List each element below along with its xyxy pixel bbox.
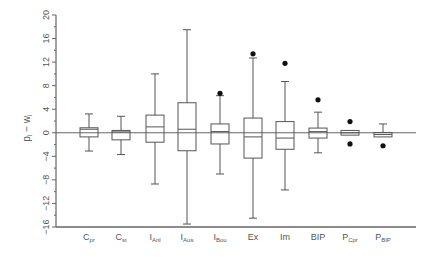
x-category-label: Cst: [115, 232, 127, 243]
y-tick-label: 8: [41, 83, 51, 88]
outlier-point: [250, 51, 255, 56]
y-tick-label: −8: [41, 175, 51, 185]
y-axis-label: pi − wi: [21, 114, 33, 142]
y-tick-label: 12: [41, 57, 51, 67]
outlier-point: [315, 97, 320, 102]
iqr-box: [146, 115, 164, 142]
outlier-point: [282, 61, 287, 66]
x-category-label: Cpr: [83, 232, 95, 243]
y-tick-label: −4: [41, 151, 51, 161]
x-category-label: IBou: [213, 232, 226, 243]
x-category-label: BIP: [311, 232, 326, 242]
x-category-label: PBIP: [375, 232, 391, 243]
x-category-label: Im: [280, 232, 290, 242]
box-bip: [309, 97, 327, 153]
y-tick-label: 16: [41, 34, 51, 44]
box-plot-chart: −16−12−8−4048121620 CprCstIAnlIAusIBouEx…: [0, 0, 440, 257]
box-i-anl: [146, 74, 164, 184]
y-tick-label: −12: [41, 196, 51, 211]
iqr-box: [211, 124, 229, 144]
box-p-bip: [374, 124, 392, 148]
box-ex: [244, 51, 262, 218]
outlier-point: [347, 141, 352, 146]
outlier-point: [347, 119, 352, 124]
iqr-box: [178, 103, 196, 151]
box-c-st: [112, 116, 130, 154]
box-p-cpr: [341, 119, 359, 147]
x-category-label: IAus: [181, 232, 194, 243]
box-series: [80, 30, 392, 224]
y-tick-label: 4: [41, 107, 51, 112]
iqr-box: [244, 118, 262, 158]
outlier-point: [380, 143, 385, 148]
category-labels: CprCstIAnlIAusIBouExImBIPPCprPBIP: [83, 232, 391, 243]
iqr-box: [276, 122, 294, 150]
x-category-label: Ex: [248, 232, 259, 242]
box-i-aus: [178, 30, 196, 224]
y-tick-label: −16: [41, 219, 51, 234]
outlier-point: [217, 91, 222, 96]
y-tick-label: 0: [41, 130, 51, 135]
x-category-label: IAnl: [149, 232, 160, 243]
y-axis: −16−12−8−4048121620: [41, 10, 56, 235]
x-category-label: PCpr: [342, 232, 358, 243]
y-tick-label: 20: [41, 10, 51, 20]
box-im: [276, 61, 294, 190]
